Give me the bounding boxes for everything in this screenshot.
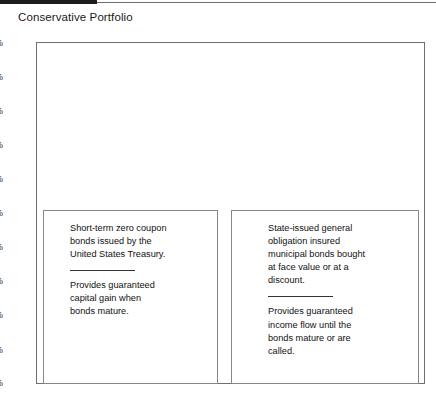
y-tick-0: 0% <box>0 378 3 388</box>
bar-1-description: Short-term zero coupon bonds issued by t… <box>70 222 209 261</box>
bar-municipal-bonds: State-issued general obligation insured … <box>231 210 419 384</box>
y-tick-10: 10% <box>0 345 3 355</box>
y-tick-20: 20% <box>0 310 3 320</box>
bar-2-content: State-issued general obligation insured … <box>268 222 410 358</box>
y-tick-40: 40% <box>0 242 3 252</box>
y-tick-60: 60% <box>0 174 3 184</box>
y-axis: 100% 90% 80% 70% 60% 50% 40% 30% 20% 10%… <box>0 0 36 396</box>
y-tick-30: 30% <box>0 276 3 286</box>
header-rule-thin <box>97 2 436 3</box>
bar-2-description: State-issued general obligation insured … <box>268 222 410 287</box>
bar-treasury-bonds: Short-term zero coupon bonds issued by t… <box>43 210 218 384</box>
header-rule <box>0 0 436 5</box>
bar-2-divider <box>268 296 333 297</box>
y-tick-80: 80% <box>0 106 3 116</box>
y-tick-70: 70% <box>0 140 3 150</box>
bar-1-divider <box>70 270 135 271</box>
y-tick-100: 100% <box>0 38 3 48</box>
y-tick-50: 50% <box>0 208 3 218</box>
y-tick-90: 90% <box>0 72 3 82</box>
bar-1-content: Short-term zero coupon bonds issued by t… <box>70 222 209 319</box>
bar-1-benefit: Provides guaranteed capital gain when bo… <box>70 279 209 318</box>
bar-2-benefit: Provides guaranteed income flow until th… <box>268 305 410 357</box>
